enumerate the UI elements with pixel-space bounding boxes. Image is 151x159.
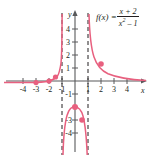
data-point	[46, 78, 51, 83]
y-axis-label: y	[67, 10, 72, 19]
y-tick-label: 1	[66, 64, 70, 73]
x-tick-label: 4	[125, 85, 129, 94]
formula-den-rest: – 1	[125, 19, 137, 28]
data-point	[72, 104, 78, 110]
formula-lhs: f(x) =	[96, 12, 117, 22]
x-axis-label: x	[140, 86, 145, 95]
y-tick-label: 4	[66, 25, 70, 34]
formula-fraction: x + 2 x2 – 1	[117, 8, 140, 28]
y-tick-label: 2	[66, 51, 70, 60]
data-point	[79, 117, 85, 123]
x-tick-label: 2	[99, 85, 103, 94]
y-tick-label: 3	[66, 38, 70, 47]
function-formula-annotation: f(x) = x + 2 x2 – 1	[96, 8, 139, 28]
x-tick-label: -4	[20, 85, 27, 94]
data-point	[33, 80, 38, 85]
y-tick-label: -4	[65, 129, 72, 138]
formula-numerator: x + 2	[117, 8, 140, 16]
x-tick-label: -2	[46, 85, 53, 94]
data-point	[98, 61, 104, 67]
x-tick-label: 3	[112, 85, 116, 94]
function-graph-figure: -4 -3 -2 -1 1 2 3 4 4 3 2 1 -1 -3 -4 x y	[0, 0, 151, 159]
x-tick-labels: -4 -3 -2 -1 1 2 3 4	[20, 85, 129, 94]
data-point	[53, 74, 58, 79]
formula-denominator: x2 – 1	[117, 16, 140, 28]
y-tick-label: -1	[65, 90, 72, 99]
curve-left-branch	[4, 14, 62, 83]
y-axis-arrow	[72, 10, 77, 16]
x-tick-label: -3	[33, 85, 40, 94]
